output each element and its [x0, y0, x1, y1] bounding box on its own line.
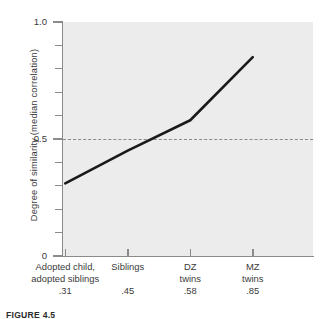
- x-tick: [190, 249, 192, 256]
- y-tick-major: [53, 138, 63, 140]
- y-tick-minor: [55, 185, 63, 186]
- x-tick: [65, 249, 67, 256]
- y-tick-minor: [55, 209, 63, 210]
- y-tick-label: 0.5: [21, 133, 47, 144]
- x-category-name: MZ twins: [197, 261, 309, 284]
- figure-caption: FIGURE 4.5: [6, 310, 55, 319]
- y-tick-minor: [55, 162, 63, 163]
- x-category-label: MZ twins.85: [197, 261, 309, 297]
- y-tick-label: 1.0: [21, 16, 47, 27]
- reference-line-0.5: [63, 139, 313, 140]
- y-tick-minor: [55, 232, 63, 233]
- x-axis-line: [62, 256, 314, 257]
- y-tick-major: [53, 21, 63, 23]
- y-tick-minor: [55, 115, 63, 116]
- y-tick-major: [53, 255, 63, 257]
- x-tick: [127, 249, 129, 256]
- x-tick: [252, 249, 254, 256]
- y-tick-minor: [55, 45, 63, 46]
- y-tick-minor: [55, 92, 63, 93]
- figure-root: Degree of similarity (median correlation…: [0, 0, 328, 319]
- x-category-value: .85: [197, 285, 309, 297]
- y-tick-minor: [55, 68, 63, 69]
- y-tick-label: 0: [21, 250, 47, 261]
